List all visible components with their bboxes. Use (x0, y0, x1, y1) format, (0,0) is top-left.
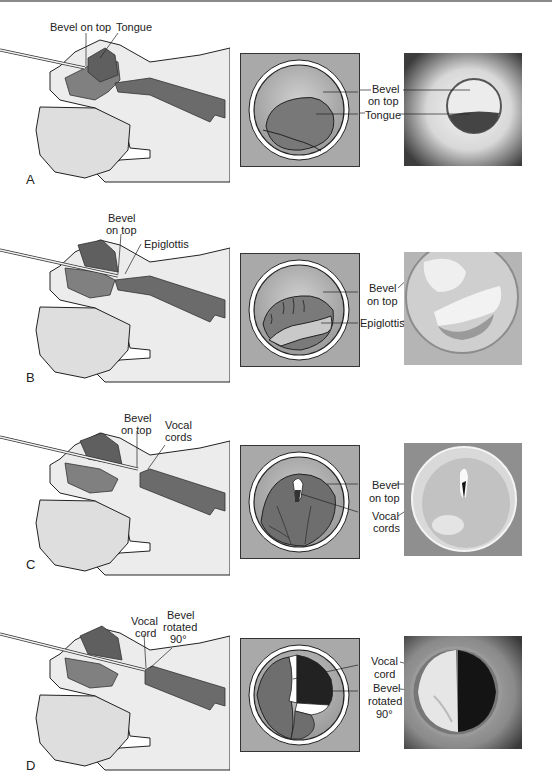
label-bevel-rotated-line3: 90° (170, 633, 187, 645)
sagittal-view-b: Bevel on top Epiglottis B (0, 200, 230, 390)
label-bevel-on-top: Bevel on top (50, 21, 111, 33)
panel-letter-a: A (26, 172, 35, 187)
view-label-bevel-c-line2: on top (369, 492, 400, 504)
label-bevel-c-line1: Bevel (124, 412, 152, 424)
endoscopic-photo-b (404, 252, 522, 365)
label-bevel-c-line2: on top (121, 424, 152, 436)
endoscopic-photo-d (404, 636, 522, 749)
label-bevel-rotated-line1: Bevel (167, 609, 195, 621)
label-vocal-cords-line1: Vocal (165, 419, 192, 431)
panel-d: Vocal cord Bevel rotated 90° D Vocal cor… (0, 588, 552, 778)
panel-a: Bevel on top Tongue A Bevel on top Tongu… (0, 0, 552, 190)
endoscopic-illustration-b (240, 253, 360, 367)
panel-letter-c: C (26, 557, 35, 572)
label-bevel-b-line1: Bevel (108, 212, 136, 224)
endoscopic-illustration-c (240, 445, 360, 559)
endoscopic-photo-c (404, 443, 522, 556)
panel-letter-d: D (26, 758, 35, 773)
endoscopic-illustration-a (240, 53, 360, 167)
panel-b: Bevel on top Epiglottis B Bevel on top E… (0, 200, 552, 390)
view-label-bevel-d-line2: rotated (368, 695, 402, 707)
label-bevel-b-line2: on top (106, 224, 137, 236)
sagittal-view-a: Bevel on top Tongue A (0, 0, 230, 190)
sagittal-view-c: Bevel on top Vocal cords C (0, 393, 230, 583)
label-vocal-cord-line1: Vocal (131, 615, 158, 627)
label-vocal-cord-line2: cord (135, 627, 156, 639)
endoscopic-photo-a (404, 53, 522, 166)
sagittal-illustration (0, 0, 230, 190)
label-tongue: Tongue (116, 21, 152, 33)
endoscopic-illustration-d (240, 638, 360, 752)
view-label-bevel-d-line1: Bevel (373, 682, 401, 694)
view-label-bevel-d-line3: 90° (376, 708, 393, 720)
sagittal-view-d: Vocal cord Bevel rotated 90° D (0, 588, 230, 778)
label-vocal-cords-line2: cords (165, 431, 192, 443)
panel-letter-b: B (26, 370, 35, 385)
panel-c: Bevel on top Vocal cords C Bevel on top … (0, 393, 552, 583)
view-label-bevel-b-line2: on top (367, 295, 398, 307)
label-epiglottis: Epiglottis (144, 238, 189, 250)
view-label-bevel-b-line1: Bevel (369, 282, 397, 294)
label-bevel-rotated-line2: rotated (163, 621, 197, 633)
view-label-vocal-c-line1: Vocal (372, 510, 399, 522)
view-label-vocal-d-line2: cord (374, 668, 395, 680)
view-label-vocal-d-line1: Vocal (371, 655, 398, 667)
